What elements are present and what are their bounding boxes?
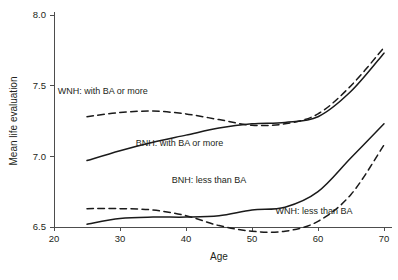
y-axis-title: Mean life evaluation: [8, 77, 19, 166]
y-tick-label: 7.0: [33, 151, 46, 162]
y-tick-label: 7.5: [33, 80, 46, 91]
series-label-0: WNH: with BA or more: [58, 86, 148, 96]
series-label-2: BNH: less than BA: [172, 175, 247, 185]
x-tick-label: 60: [313, 233, 324, 244]
series-label-1: BNH: with BA or more: [136, 138, 224, 148]
x-axis-title: Age: [210, 251, 228, 262]
x-tick-label: 40: [181, 233, 192, 244]
y-tick-label: 6.5: [33, 221, 46, 232]
x-tick-label: 30: [115, 233, 126, 244]
series-label-3: WNH: less than BA: [276, 206, 353, 216]
life-evaluation-by-age-chart: 6.57.07.58.0 Mean life evaluation 203040…: [0, 0, 398, 280]
x-tick-label: 20: [49, 233, 60, 244]
x-tick-label: 70: [379, 233, 390, 244]
x-tick-label: 50: [247, 233, 258, 244]
y-tick-label: 8.0: [33, 9, 46, 20]
chart-figure: 6.57.07.58.0 Mean life evaluation 203040…: [0, 0, 398, 280]
